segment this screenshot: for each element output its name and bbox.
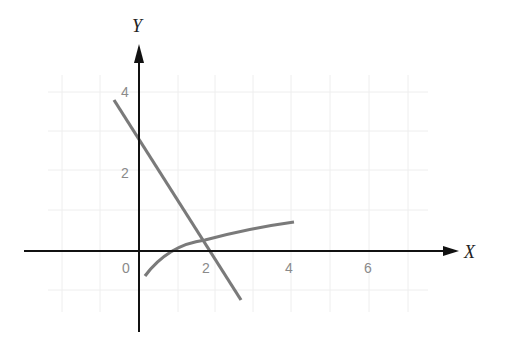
y-tick-4: 4 <box>121 84 129 100</box>
x-tick-2: 2 <box>202 260 210 276</box>
x-tick-4: 4 <box>285 260 293 276</box>
coordinate-plot: Y X 4 2 0 2 4 6 <box>0 0 506 349</box>
y-tick-2: 2 <box>121 165 129 181</box>
x-axis-label: X <box>463 242 476 262</box>
y-axis-arrow-icon <box>134 44 144 63</box>
grid <box>48 75 428 312</box>
x-axis-arrow-icon <box>443 246 459 256</box>
origin-label: 0 <box>122 260 130 276</box>
x-tick-6: 6 <box>364 260 372 276</box>
y-axis-label: Y <box>132 16 144 36</box>
